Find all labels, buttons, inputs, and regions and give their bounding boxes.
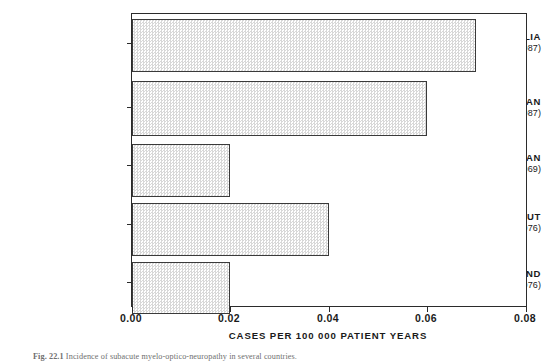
figure-caption-label: Fig. 22.1 (33, 352, 64, 361)
bar-niigata-japan[interactable] (132, 81, 427, 136)
plot-area (131, 13, 527, 307)
x-axis-tick-label: 0.04 (298, 312, 358, 324)
x-axis-tick-label: 0.02 (199, 312, 259, 324)
figure-container: AUSTRALIA Ojeda et al (1987) NIIGATA, JA… (0, 0, 549, 363)
bar-s-england[interactable] (132, 262, 230, 314)
x-axis-tick-label: 0.00 (101, 312, 161, 324)
bar-japan[interactable] (132, 144, 230, 197)
x-axis-title: CASES PER 100 000 PATIENT YEARS (131, 330, 525, 341)
figure-caption-text: Incidence of subacute myelo-optico-neuro… (66, 352, 297, 361)
x-axis-tick-label: 0.08 (495, 312, 549, 324)
figure-caption: Fig. 22.1 Incidence of subacute myelo-op… (33, 352, 503, 363)
x-axis-tick-label: 0.06 (396, 312, 456, 324)
bar-australia[interactable] (132, 19, 476, 72)
bar-connecticut[interactable] (132, 203, 329, 256)
